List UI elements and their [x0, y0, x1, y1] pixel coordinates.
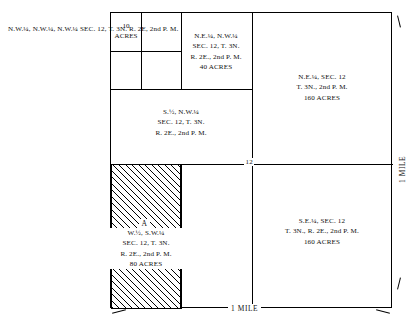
cell-label-s-half-nw: S.½, N.W.¼ SEC. 12, T. 3N. R. 2E., 2nd P…: [111, 107, 251, 138]
se-quarter-line-2: T. 3N., R. 2E., 2nd P. M.: [252, 226, 392, 236]
scale-label-bottom: 1 MILE: [228, 304, 261, 313]
section-number-label: 12: [244, 158, 254, 166]
side-caption-line-1: N.W.¼, N.W.¼, N.W.¼: [8, 25, 78, 33]
se-quarter-line-3: 160 ACRES: [252, 237, 392, 247]
ne-nw-line-1: N.E.¼, N.W.¼: [181, 31, 251, 41]
s-half-nw-line-3: R. 2E., 2nd P. M.: [111, 128, 251, 138]
nw-quarter-horizontal-split: [111, 89, 252, 90]
ne-quarter-line-3: 160 ACRES: [252, 93, 392, 103]
dimension-tick-bottom-left: [112, 309, 126, 313]
dimension-tick-top-right: [397, 16, 401, 28]
ne-nw-line-3: R. 2E., 2nd P. M.: [181, 52, 251, 62]
cell-label-se-quarter: S.E.¼, SEC. 12 T. 3N., R. 2E., 2nd P. M.…: [252, 216, 392, 247]
ne-quarter-line-2: T. 3N., 2nd P. M.: [252, 82, 392, 92]
ne-nw-line-4: 40 ACRES: [181, 62, 251, 72]
section-diagram: N.W.¼, N.W.¼, N.W.¼ SEC. 12, T. 3N. R. 2…: [0, 0, 413, 328]
w-half-sw-line-4: 80 ACRES: [111, 259, 181, 269]
ne-quarter-line-1: N.E.¼, SEC. 12: [252, 72, 392, 82]
scale-label-right: 1 MILE: [398, 154, 407, 185]
ten-acre-horizontal-split: [111, 51, 181, 52]
ne-nw-line-2: SEC. 12, T. 3N.: [181, 41, 251, 51]
dimension-tick-bottom-right: [376, 309, 390, 313]
side-caption: N.W.¼, N.W.¼, N.W.¼ SEC. 12, T. 3N. R. 2…: [8, 24, 108, 34]
w-half-sw-line-1: W.½, S.W.¼: [111, 228, 181, 238]
cell-label-ne-nw: N.E.¼, N.W.¼ SEC. 12, T. 3N. R. 2E., 2nd…: [181, 31, 251, 72]
ten-acres-line-1: 10: [122, 22, 129, 30]
dimension-tick-right-bottom: [397, 278, 401, 290]
w-half-sw-line-3: R. 2E., 2nd P. M.: [111, 249, 181, 259]
s-half-nw-line-2: SEC. 12, T. 3N.: [111, 117, 251, 127]
cell-label-ten-acres: 10 ACRES: [112, 21, 140, 42]
se-quarter-line-1: S.E.¼, SEC. 12: [252, 216, 392, 226]
ten-acres-line-2: ACRES: [115, 32, 138, 40]
s-half-nw-line-1: S.½, N.W.¼: [111, 107, 251, 117]
cell-label-ne-quarter: N.E.¼, SEC. 12 T. 3N., 2nd P. M. 160 ACR…: [252, 72, 392, 103]
parcel-a-letter: A: [139, 219, 150, 228]
cell-label-w-half-sw: W.½, S.W.¼ SEC. 12, T. 3N. R. 2E., 2nd P…: [110, 228, 182, 269]
w-half-sw-line-2: SEC. 12, T. 3N.: [111, 238, 181, 248]
